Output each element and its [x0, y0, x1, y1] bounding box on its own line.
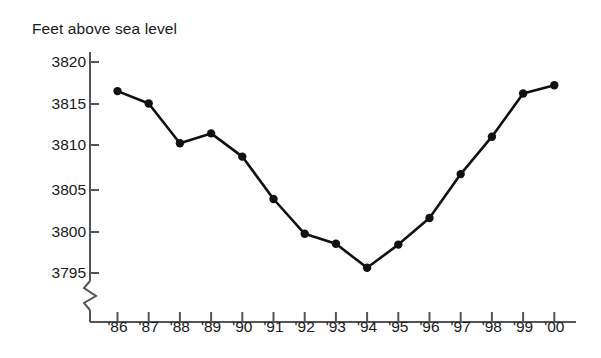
x-tick-label: '86 [107, 318, 127, 336]
x-tick-label: '90 [232, 318, 252, 336]
data-point [145, 99, 153, 107]
data-point [176, 139, 184, 147]
x-tick-label: '91 [263, 318, 283, 336]
data-point [238, 152, 246, 160]
y-axis-break-icon [84, 281, 96, 310]
x-tick-label: '87 [139, 318, 159, 336]
x-tick-label: '89 [201, 318, 221, 336]
x-tick-label: '98 [482, 318, 502, 336]
data-point [269, 195, 277, 203]
plot-area [0, 0, 601, 358]
y-axis-ticks [90, 62, 99, 273]
line-chart: Feet above sea level 3820 3815 3810 3805… [0, 0, 601, 358]
data-point [332, 240, 340, 248]
data-point [425, 214, 433, 222]
x-tick-label: '99 [513, 318, 533, 336]
x-tick-label: '95 [388, 318, 408, 336]
x-tick-label: '88 [170, 318, 190, 336]
x-tick-label: '94 [357, 318, 377, 336]
data-point [519, 89, 527, 97]
x-tick-label: '93 [326, 318, 346, 336]
data-point-markers [113, 81, 558, 272]
data-point [207, 129, 215, 137]
data-point [488, 133, 496, 141]
data-point [550, 81, 558, 89]
x-tick-label: '92 [295, 318, 315, 336]
data-point [457, 170, 465, 178]
data-point [113, 87, 121, 95]
x-tick-label: '97 [451, 318, 471, 336]
data-point [301, 230, 309, 238]
x-tick-label: '00 [544, 318, 564, 336]
data-point [363, 264, 371, 272]
data-point [394, 240, 402, 248]
x-tick-label: '96 [419, 318, 439, 336]
